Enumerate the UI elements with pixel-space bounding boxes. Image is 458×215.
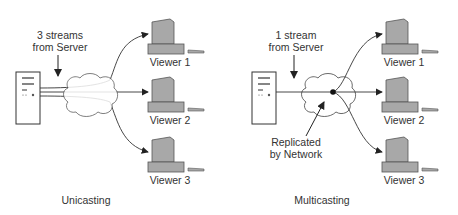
viewer-1-computer-icon (148, 19, 204, 54)
replicated-label: Replicated by Network (264, 136, 328, 160)
replicated-label-line-2: by Network (264, 148, 328, 160)
multicasting-caption: Multicasting (290, 194, 354, 206)
stream-label-line-1: 1 stream (264, 29, 328, 41)
network-cloud-icon (64, 74, 118, 117)
viewer-3-label: Viewer 3 (382, 174, 426, 186)
replicated-label-line-1: Replicated (264, 136, 328, 148)
stream-label: 3 streams from Server (28, 29, 92, 53)
viewer-3-computer-icon (148, 137, 204, 172)
viewer-2-label: Viewer 2 (382, 114, 426, 126)
viewer-3-computer-icon (382, 137, 438, 172)
viewer-2-label: Viewer 2 (148, 114, 192, 126)
stream-label-line-2: from Server (264, 41, 328, 53)
stream-label-line-2: from Server (28, 41, 92, 53)
viewer-2-computer-icon (382, 77, 438, 112)
viewer-3-label: Viewer 3 (148, 174, 192, 186)
network-cloud-icon (302, 74, 356, 117)
viewer-1-label: Viewer 1 (382, 56, 426, 68)
server-icon (252, 72, 276, 124)
stream-label: 1 stream from Server (264, 29, 328, 53)
server-icon (16, 72, 40, 124)
viewer-2-computer-icon (148, 77, 204, 112)
unicasting-caption: Unicasting (58, 194, 114, 206)
viewer-1-label: Viewer 1 (148, 56, 192, 68)
stream-label-line-1: 3 streams (28, 29, 92, 41)
replication-point (330, 89, 336, 95)
viewer-1-computer-icon (382, 19, 438, 54)
